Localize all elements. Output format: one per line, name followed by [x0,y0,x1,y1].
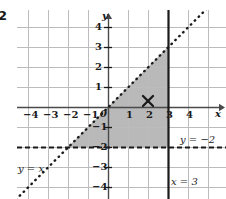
y-tick-label-neg4: −4 [92,182,107,192]
x-tick-label-2: 2 [146,110,153,120]
line-label-x-equals-3: x = 3 [171,177,198,187]
y-tick-label-3: 3 [95,42,102,52]
y-tick-label-neg1: −1 [92,122,107,132]
x-tick-label-3: 3 [166,110,173,120]
x-tick-label-4: 4 [186,110,193,120]
y-tick-label-2: 2 [95,62,102,72]
question-number: 2 [0,8,7,23]
y-tick-label-neg2: −2 [92,142,107,152]
figure-root: 2 [0,0,226,199]
x-tick-label-neg1: −1 [83,110,98,120]
line-label-y-equals-neg2: y = −2 [180,135,215,145]
y-tick-label-4: 4 [95,22,102,32]
y-tick-label-1: 1 [95,82,102,92]
y-tick-label-neg3: −3 [92,162,107,172]
y-axis-label: y [102,11,108,21]
line-label-y-equals-x: y = x [18,164,44,174]
x-tick-label-neg2: −2 [63,110,78,120]
x-tick-label-1: 1 [126,110,133,120]
x-axis-label: x [215,109,221,119]
coordinate-graph: y x 4 3 2 1 −1 −2 −3 −4 −4 −3 −2 −1 1 2 … [17,10,226,199]
x-tick-label-neg3: −3 [43,110,58,120]
graph-canvas [17,10,226,199]
x-tick-label-neg4: −4 [23,110,38,120]
origin-label: 0 [100,109,107,119]
